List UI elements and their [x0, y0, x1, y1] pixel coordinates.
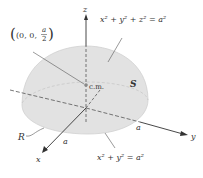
point-close-paren: )	[48, 25, 54, 43]
region-leader	[26, 128, 44, 136]
hemisphere-diagram: c.m. ( (0, 0, a 2 ) x² + y² + z² = a² x²…	[0, 0, 203, 178]
radius-x-label: a	[63, 137, 68, 146]
sphere-equation: x² + y² + z² = a²	[100, 15, 166, 24]
x-axis-arrow	[42, 146, 48, 153]
y-axis-arrow	[180, 131, 188, 136]
y-axis	[140, 122, 183, 134]
z-axis-arrow	[84, 14, 88, 20]
point-num: a	[42, 26, 46, 34]
point-prefix: (0, 0,	[16, 31, 37, 40]
surface-label: S	[130, 79, 137, 89]
radius-y-label: a	[136, 123, 141, 132]
region-label: R	[17, 132, 25, 142]
y-axis-label: y	[190, 132, 196, 141]
point-den: 2	[42, 35, 46, 43]
center-of-mass-dot	[84, 83, 88, 87]
z-axis-label: z	[82, 5, 88, 14]
point-open-paren: (	[10, 25, 16, 43]
circle-equation: x² + y² = a²	[97, 153, 144, 162]
x-axis-label: x	[36, 155, 41, 164]
hemisphere-surface	[22, 46, 148, 134]
cm-label: c.m.	[89, 83, 104, 91]
diagram-canvas: c.m. ( (0, 0, a 2 ) x² + y² + z² = a² x²…	[0, 0, 203, 178]
circle-eq-leader	[105, 133, 115, 148]
